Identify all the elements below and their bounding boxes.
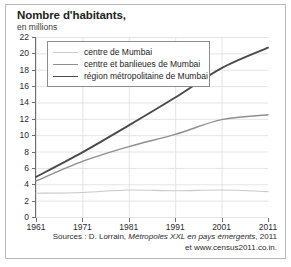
legend-item-metropolitaine: région métropolitaine de Mumbai <box>53 70 204 82</box>
y-tick-label: 14 <box>20 98 29 106</box>
chart-legend: centre de Mumbai centre et banlieues de … <box>47 41 210 87</box>
x-tick-mark <box>268 218 269 222</box>
title-block: Nombre d'habitants, en millions <box>17 9 257 32</box>
source-suffix: , 2011 <box>255 232 277 241</box>
y-tick-mark <box>32 168 36 169</box>
x-tick-label: 1961 <box>16 223 56 232</box>
x-tick-mark <box>222 218 223 222</box>
legend-swatch-metropolitaine <box>53 71 78 81</box>
x-tick-mark <box>82 218 83 222</box>
y-tick-mark <box>32 152 36 153</box>
legend-swatch-centre <box>53 47 78 57</box>
y-tick-label: 16 <box>20 82 29 90</box>
y-tick-label: 6 <box>24 164 29 172</box>
series-line-1 <box>36 115 268 181</box>
y-tick-label: 22 <box>20 33 29 41</box>
legend-label-centre: centre de Mumbai <box>84 47 152 57</box>
x-tick-mark <box>129 218 130 222</box>
y-tick-mark <box>32 86 36 87</box>
y-tick-mark <box>32 119 36 120</box>
y-tick-mark <box>32 70 36 71</box>
x-tick-label: 2001 <box>202 223 242 232</box>
y-tick-label: 4 <box>24 180 29 188</box>
y-tick-label: 8 <box>24 148 29 156</box>
y-tick-label: 12 <box>20 115 29 123</box>
legend-item-banlieues: centre et banlieues de Mumbai <box>53 58 204 70</box>
source-note: Sources : D. Lorrain, Métropoles XXL en … <box>40 232 277 253</box>
chart-subtitle: en millions <box>17 22 257 32</box>
y-tick-mark <box>32 53 36 54</box>
y-tick-mark <box>32 201 36 202</box>
series-line-0 <box>36 190 268 193</box>
y-tick-label: 2 <box>24 197 29 205</box>
source-line-1: Sources : D. Lorrain, Métropoles XXL en … <box>40 232 277 243</box>
y-tick-label: 20 <box>20 49 29 57</box>
source-prefix: Sources : D. Lorrain, <box>53 232 129 241</box>
legend-item-centre: centre de Mumbai <box>53 46 204 58</box>
x-tick-mark <box>175 218 176 222</box>
y-tick-label: 18 <box>20 66 29 74</box>
legend-label-banlieues: centre et banlieues de Mumbai <box>84 59 200 69</box>
x-tick-label: 1991 <box>155 223 195 232</box>
source-title-italic: Métropoles XXL en pays émergents <box>128 232 255 241</box>
x-tick-label: 1981 <box>109 223 149 232</box>
y-tick-mark <box>32 135 36 136</box>
figure-container: Nombre d'habitants, en millions 02468101… <box>0 0 291 267</box>
y-tick-mark <box>32 102 36 103</box>
legend-swatch-banlieues <box>53 59 78 69</box>
chart-title: Nombre d'habitants, <box>17 9 257 22</box>
x-tick-mark <box>36 218 37 222</box>
source-line-2: et www.census2011.co.in. <box>40 243 277 254</box>
x-tick-label: 1971 <box>62 223 102 232</box>
y-tick-label: 0 <box>24 213 29 221</box>
x-tick-label: 2011 <box>248 223 288 232</box>
y-tick-mark <box>32 37 36 38</box>
y-tick-mark <box>32 184 36 185</box>
y-tick-label: 10 <box>20 131 29 139</box>
legend-label-metropolitaine: région métropolitaine de Mumbai <box>84 71 208 81</box>
